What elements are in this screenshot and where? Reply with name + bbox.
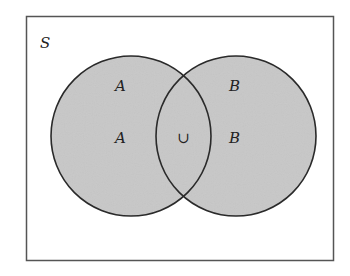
set-a-label-middle: A bbox=[113, 129, 126, 147]
venn-diagram: S A A B B ∪ bbox=[0, 0, 350, 276]
universe-label: S bbox=[40, 34, 50, 52]
set-b-label-top: B bbox=[228, 77, 240, 95]
set-b-label-middle: B bbox=[228, 129, 240, 147]
union-symbol: ∪ bbox=[177, 129, 190, 147]
set-a-label-top: A bbox=[113, 77, 126, 95]
